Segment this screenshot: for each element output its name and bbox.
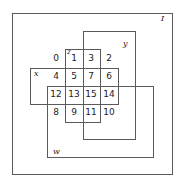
cell-13: 13	[65, 85, 83, 103]
cell-7: 7	[82, 67, 100, 85]
cell-6: 6	[100, 67, 118, 85]
cell-8: 8	[47, 103, 65, 121]
cell-12: 12	[47, 85, 65, 103]
cell-5: 5	[65, 67, 83, 85]
cell-0: 0	[47, 49, 65, 67]
cell-15: 15	[82, 85, 100, 103]
universe-label: I	[161, 15, 164, 23]
cell-3: 3	[82, 49, 100, 67]
cell-1: 1	[65, 49, 83, 67]
set-x-label: x	[34, 70, 39, 78]
set-y-label: y	[123, 40, 128, 48]
cell-4: 4	[47, 67, 65, 85]
cell-9: 9	[65, 103, 83, 121]
cell-2: 2	[100, 49, 118, 67]
set-w-label: w	[53, 148, 60, 156]
cell-11: 11	[82, 103, 100, 121]
cell-14: 14	[100, 85, 118, 103]
cell-10: 10	[100, 103, 118, 121]
